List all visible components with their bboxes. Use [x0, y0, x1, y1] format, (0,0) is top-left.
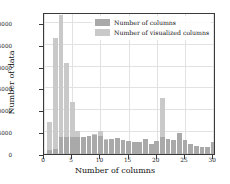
x-tick-mark [128, 155, 129, 159]
histogram-bar [75, 137, 80, 154]
legend-swatch [95, 29, 110, 36]
histogram-bar [143, 139, 148, 154]
histogram-bar [59, 137, 64, 154]
histogram-bar [53, 38, 58, 154]
histogram-bar [205, 147, 210, 154]
histogram-bar [47, 150, 52, 154]
histogram-bar [211, 142, 215, 154]
x-tick-mark [156, 155, 157, 159]
histogram-bar [98, 136, 103, 154]
histogram-bar [194, 146, 199, 154]
legend-item: Number of visualized columns [95, 28, 209, 37]
x-tick-mark [71, 155, 72, 159]
y-tick-mark [39, 68, 43, 69]
y-axis-label: Number of data [7, 18, 16, 148]
histogram-bar [154, 141, 159, 154]
histogram-bar [149, 144, 154, 154]
legend-swatch [95, 19, 110, 26]
legend-label: Number of visualized columns [114, 29, 209, 36]
legend-label: Number of columns [114, 19, 176, 26]
histogram-bar [126, 141, 131, 154]
histogram-bar [166, 139, 171, 154]
histogram-figure: 0500010000150002000025000300000510152025… [0, 0, 230, 184]
histogram-bar [64, 137, 69, 154]
x-tick-mark [212, 155, 213, 159]
legend-item: Number of columns [95, 18, 209, 27]
y-tick-mark [39, 89, 43, 90]
x-tick-mark [184, 155, 185, 159]
histogram-bar [177, 133, 182, 154]
x-tick-mark [99, 155, 100, 159]
y-tick-mark [39, 133, 43, 134]
histogram-bar [81, 137, 86, 154]
histogram-bar [132, 142, 137, 154]
y-tick-mark [39, 24, 43, 25]
histogram-bar [200, 147, 205, 154]
y-tick-label: 0 [8, 152, 12, 158]
histogram-bar [121, 140, 126, 154]
x-axis-label: Number of columns [0, 166, 230, 175]
histogram-bar [87, 136, 92, 154]
histogram-bar [104, 140, 109, 154]
histogram-bar [160, 137, 165, 154]
histogram-bar [92, 135, 97, 154]
y-tick-mark [39, 111, 43, 112]
x-tick-mark [43, 155, 44, 159]
chart-legend: Number of columnsNumber of visualized co… [92, 16, 211, 40]
histogram-bar [53, 149, 58, 154]
histogram-bar [183, 140, 188, 154]
histogram-bar [188, 144, 193, 154]
histogram-bar [137, 142, 142, 154]
y-tick-mark [39, 46, 43, 47]
histogram-bar [70, 137, 75, 154]
histogram-bar [115, 138, 120, 154]
histogram-bar [59, 15, 64, 154]
histogram-bar [171, 140, 176, 154]
histogram-bar [109, 139, 114, 154]
